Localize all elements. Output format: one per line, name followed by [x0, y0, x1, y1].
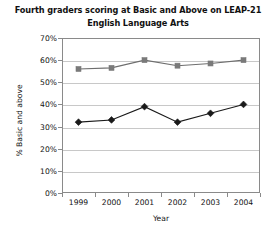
x-axis-tick-mark	[128, 193, 129, 197]
series-line	[79, 104, 244, 122]
data-point-diamond	[207, 110, 214, 117]
x-axis-tick-mark	[260, 193, 261, 197]
data-point-square	[109, 65, 114, 70]
y-axis-tick-label: 20%	[11, 144, 57, 153]
chart-container: Fourth graders scoring at Basic and Abov…	[0, 0, 276, 240]
chart-title: Fourth graders scoring at Basic and Abov…	[10, 4, 266, 29]
y-axis-tick-label: 40%	[11, 100, 57, 109]
x-axis-tick-mark	[227, 193, 228, 197]
y-axis-tick-label: 30%	[11, 122, 57, 131]
y-axis-tick-label: 50%	[11, 78, 57, 87]
data-point-diamond	[174, 119, 181, 126]
x-axis-tick-mark	[62, 193, 63, 197]
x-axis-tick-label: 2004	[224, 198, 264, 207]
series-layer	[62, 38, 260, 193]
y-axis-tick-label: 10%	[11, 166, 57, 175]
data-point-square	[175, 63, 180, 68]
chart-title-line-2: English Language Arts	[10, 17, 266, 30]
data-point-square	[241, 58, 246, 63]
y-axis-tick-label: 60%	[11, 56, 57, 65]
chart-title-line-1: Fourth graders scoring at Basic and Abov…	[15, 5, 262, 15]
x-axis-tick-mark	[95, 193, 96, 197]
x-axis-tick-mark	[161, 193, 162, 197]
x-axis-tick-mark	[194, 193, 195, 197]
x-axis-title: Year	[62, 214, 260, 223]
data-point-diamond	[108, 117, 115, 124]
data-point-square	[208, 61, 213, 66]
data-point-square	[76, 67, 81, 72]
data-point-square	[142, 58, 147, 63]
data-point-diamond	[75, 119, 82, 126]
y-axis-tick-label: 0%	[11, 189, 57, 198]
data-point-diamond	[141, 103, 148, 110]
y-axis-tick-label: 70%	[11, 34, 57, 43]
series-line	[79, 60, 244, 69]
data-point-diamond	[240, 101, 247, 108]
